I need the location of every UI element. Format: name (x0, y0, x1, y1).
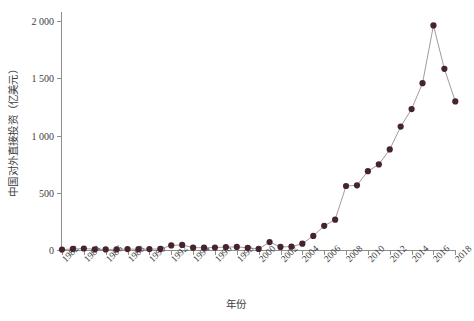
data-point (103, 246, 109, 252)
data-point (146, 246, 152, 252)
data-point (190, 245, 196, 251)
data-point (321, 223, 327, 229)
data-point (398, 123, 404, 129)
x-axis-title: 年份 (0, 296, 471, 311)
x-axis-title-text: 年份 (226, 299, 246, 310)
data-point (332, 217, 338, 223)
data-point (256, 246, 262, 252)
data-point (365, 168, 371, 174)
data-point (179, 242, 185, 248)
data-point (299, 241, 305, 247)
data-point (81, 245, 87, 251)
data-point (223, 244, 229, 250)
data-point (387, 146, 393, 152)
data-point (168, 242, 174, 248)
data-point (212, 245, 218, 251)
data-point (288, 244, 294, 250)
data-point (124, 246, 130, 252)
data-point (92, 246, 98, 252)
data-point (114, 246, 120, 252)
series-markers (59, 22, 459, 252)
data-point (343, 183, 349, 189)
data-point (409, 106, 415, 112)
data-point (441, 66, 447, 72)
data-point (135, 246, 141, 252)
data-point (59, 246, 65, 252)
data-point (430, 22, 436, 28)
data-point (234, 244, 240, 250)
data-point (277, 244, 283, 250)
data-point (245, 245, 251, 251)
data-point (354, 182, 360, 188)
data-point (266, 239, 272, 245)
data-point (157, 246, 163, 252)
data-point (376, 161, 382, 167)
data-point (310, 233, 316, 239)
data-point (201, 245, 207, 251)
data-point (419, 80, 425, 86)
series-line (62, 25, 455, 249)
data-point (70, 246, 76, 252)
data-point (452, 98, 458, 104)
